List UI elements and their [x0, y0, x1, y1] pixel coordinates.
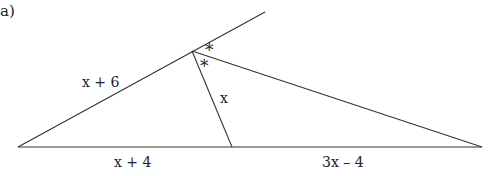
bisector-label: x — [220, 91, 228, 105]
base-right-label: 3x – 4 — [322, 155, 364, 169]
left-side-extended — [18, 12, 265, 147]
triangle-diagram — [0, 0, 489, 176]
right-side — [192, 51, 482, 147]
left-side-label: x + 6 — [82, 75, 119, 89]
base-left-label: x + 4 — [114, 155, 151, 169]
angle-mark-lower: * — [200, 58, 209, 75]
